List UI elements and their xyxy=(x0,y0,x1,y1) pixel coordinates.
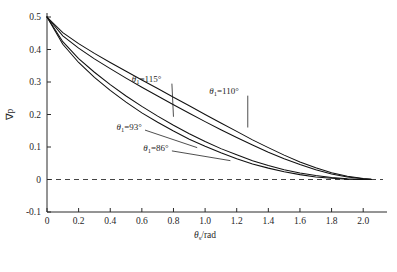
y-tick-label: -0.1 xyxy=(26,207,41,217)
y-tick-label: 0.5 xyxy=(29,12,41,22)
series-label-c86: θ1=86° xyxy=(143,143,169,154)
x-tick-label: 1.4 xyxy=(262,216,274,226)
series-label-c93: θ1=93° xyxy=(116,122,142,133)
x-tick-label: 1.2 xyxy=(231,216,243,226)
series-label-c115: θ1=115° xyxy=(132,74,162,85)
y-tick-label: 0.4 xyxy=(29,45,41,55)
y-tick-label: 0.1 xyxy=(29,142,41,152)
chart-svg: -0.100.10.20.30.40.500.20.40.60.81.01.21… xyxy=(0,0,397,272)
curve-86 xyxy=(47,17,371,180)
curve-93 xyxy=(47,17,371,180)
x-tick-label: 0.6 xyxy=(136,216,148,226)
leader-line-c115 xyxy=(172,84,174,117)
x-tick-label: 1.8 xyxy=(326,216,338,226)
y-tick-label: 0.3 xyxy=(29,77,41,87)
curve-115 xyxy=(47,17,371,179)
x-tick-label: 0.2 xyxy=(73,216,85,226)
y-axis-label: ∇p xyxy=(5,108,15,121)
series-label-c110: θ1=110° xyxy=(209,86,239,97)
y-tick-label: 0.2 xyxy=(29,110,41,120)
x-tick-label: 2.0 xyxy=(357,216,369,226)
curve-110 xyxy=(47,17,371,179)
x-tick-label: 0.4 xyxy=(104,216,116,226)
leader-line-c86 xyxy=(172,151,230,161)
x-tick-label: 1.6 xyxy=(294,216,306,226)
x-tick-label: 0 xyxy=(45,216,50,226)
x-tick-label: 0.8 xyxy=(168,216,180,226)
x-axis-label: θs/rad xyxy=(194,230,216,241)
y-tick-label: 0 xyxy=(36,175,41,185)
chart-figure: -0.100.10.20.30.40.500.20.40.60.81.01.21… xyxy=(0,0,397,272)
x-tick-label: 1.0 xyxy=(199,216,211,226)
